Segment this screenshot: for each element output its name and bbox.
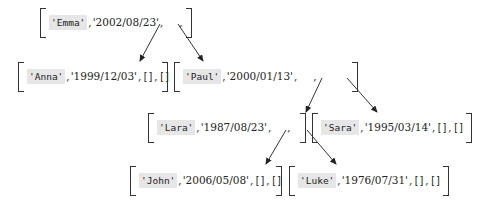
node-name: 'Luke': [298, 173, 336, 188]
node-name: 'Anna': [27, 69, 65, 84]
right-child-empty: []: [430, 175, 441, 186]
left-child-empty: []: [436, 122, 447, 133]
tree-node-anna: 'Anna' , '1999/12/03' , [] , []: [18, 62, 168, 90]
node-name: 'John': [139, 173, 177, 188]
right-bracket: [186, 8, 192, 38]
right-bracket: [276, 166, 282, 196]
node-name: 'Emma': [49, 15, 87, 30]
right-bracket: [466, 113, 472, 143]
node-date: '1999/12/03': [71, 70, 137, 82]
left-bracket: [312, 113, 318, 143]
right-bracket: [162, 62, 168, 92]
node-date: '1976/07/31': [342, 174, 408, 186]
node-name: 'Lara': [157, 120, 195, 135]
right-bracket: [443, 166, 449, 196]
node-name: 'Paul': [183, 69, 221, 84]
left-child-empty: []: [142, 71, 153, 82]
tree-node-john: 'John' , '2006/05/08' , [] , []: [130, 166, 282, 194]
tree-node-paul: 'Paul' , '2000/01/13' , ,: [174, 62, 358, 90]
left-bracket: [289, 166, 295, 196]
tree-node-lara: 'Lara' , '1987/08/23' , ,: [148, 113, 306, 141]
node-date: '1995/03/14': [365, 121, 431, 133]
left-child-empty: []: [254, 175, 265, 186]
node-date: '2000/01/13': [227, 70, 293, 82]
left-bracket: [174, 62, 180, 92]
node-date: '1987/08/23': [201, 121, 267, 133]
tree-node-emma: 'Emma' , '2002/08/23' , ,: [40, 8, 192, 36]
tree-node-sara: 'Sara' , '1995/03/14' , [] , []: [312, 113, 472, 141]
right-bracket: [300, 113, 306, 143]
left-bracket: [148, 113, 154, 143]
node-name: 'Sara': [321, 120, 359, 135]
left-child-empty: []: [413, 175, 424, 186]
left-bracket: [130, 166, 136, 196]
node-date: '2002/08/23': [93, 16, 159, 28]
node-date: '2006/05/08': [183, 174, 249, 186]
left-bracket: [40, 8, 46, 38]
tree-node-luke: 'Luke' , '1976/07/31' , [] , []: [289, 166, 449, 194]
right-child-empty: []: [453, 122, 464, 133]
left-bracket: [18, 62, 24, 92]
right-bracket: [352, 62, 358, 92]
